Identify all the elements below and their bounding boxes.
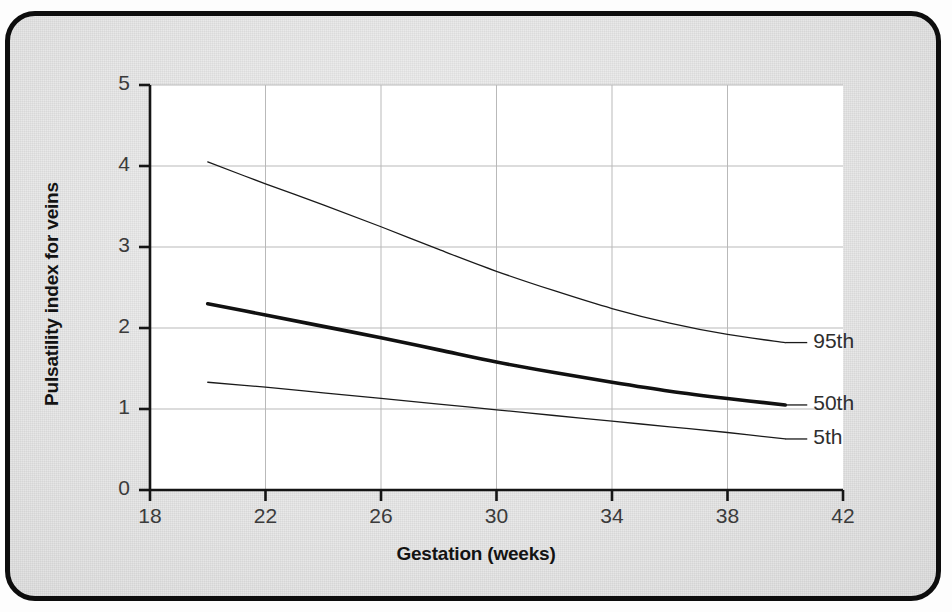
series-label-50th: 50th	[813, 391, 854, 415]
y-axis-tick-label: 2	[90, 314, 130, 338]
x-axis-tick-label: 38	[698, 504, 758, 528]
y-axis-tick-label: 4	[90, 152, 130, 176]
series-label-95th: 95th	[813, 329, 854, 353]
y-axis-tick-label: 5	[90, 71, 130, 95]
x-axis-tick-label: 22	[236, 504, 296, 528]
y-axis-tick-label: 3	[90, 233, 130, 257]
x-axis-tick-label: 18	[120, 504, 180, 528]
figure-page: Gestation (weeks) Pulsatility index for …	[0, 0, 952, 612]
y-axis-title: Pulsatility index for veins	[41, 129, 63, 459]
y-axis-tick-label: 0	[90, 476, 130, 500]
series-label-5th: 5th	[813, 425, 842, 449]
x-axis-tick-label: 30	[467, 504, 527, 528]
line-chart: Gestation (weeks) Pulsatility index for …	[0, 0, 952, 612]
x-axis-tick-label: 26	[351, 504, 411, 528]
x-axis-title: Gestation (weeks)	[0, 543, 952, 565]
y-axis-tick-label: 1	[90, 395, 130, 419]
x-axis-tick-label: 34	[582, 504, 642, 528]
x-axis-tick-label: 42	[813, 504, 873, 528]
